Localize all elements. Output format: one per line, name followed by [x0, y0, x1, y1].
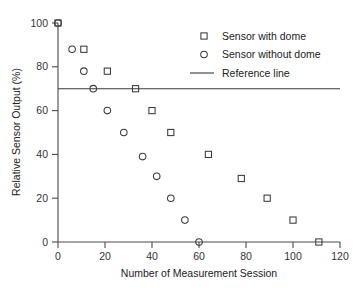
- x-tick-label: 20: [99, 250, 111, 262]
- data-point-square: [205, 151, 211, 157]
- chart-figure: 020406080100 020406080100120 Number of M…: [0, 0, 364, 291]
- legend-item-label: Reference line: [222, 67, 290, 79]
- x-tick-label: 0: [55, 250, 61, 262]
- y-axis-tick-labels: 020406080100: [30, 17, 48, 248]
- legend: Sensor with domeSensor without domeRefer…: [190, 30, 321, 79]
- x-tick-label: 80: [240, 250, 252, 262]
- data-point-square: [104, 68, 110, 74]
- x-tick-label: 100: [284, 250, 302, 262]
- x-axis-tick-labels: 020406080100120: [55, 250, 349, 262]
- data-point-circle: [104, 107, 111, 114]
- data-point-circle: [121, 129, 128, 136]
- y-tick-label: 60: [36, 104, 48, 116]
- x-tick-label: 60: [193, 250, 205, 262]
- data-point-square: [81, 46, 87, 52]
- x-tick-label: 120: [331, 250, 349, 262]
- data-point-square: [149, 108, 155, 114]
- data-point-circle: [182, 217, 189, 224]
- y-tick-label: 0: [42, 236, 48, 248]
- data-point-square: [264, 195, 270, 201]
- data-point-square: [290, 217, 296, 223]
- data-point-square: [238, 175, 244, 181]
- y-axis-ticks: [52, 23, 58, 242]
- data-point-circle: [69, 46, 76, 53]
- legend-item-label: Sensor with dome: [222, 30, 306, 42]
- data-point-circle: [139, 153, 146, 160]
- y-axis-title: Relative Sensor Output (%): [10, 68, 22, 196]
- legend-marker-circle: [201, 51, 208, 58]
- data-point-square: [168, 129, 174, 135]
- y-tick-label: 80: [36, 60, 48, 72]
- data-point-circle: [168, 195, 175, 202]
- x-tick-label: 40: [146, 250, 158, 262]
- legend-marker-square: [201, 33, 207, 39]
- x-axis-title: Number of Measurement Session: [121, 267, 278, 279]
- data-point-circle: [153, 173, 160, 180]
- data-point-circle: [81, 68, 88, 75]
- y-tick-label: 100: [30, 17, 48, 29]
- scatter-plot-canvas: 020406080100 020406080100120 Number of M…: [0, 0, 364, 291]
- y-tick-label: 20: [36, 192, 48, 204]
- y-tick-label: 40: [36, 148, 48, 160]
- legend-item-label: Sensor without dome: [222, 48, 321, 60]
- series-sensor-without-dome: [55, 20, 203, 246]
